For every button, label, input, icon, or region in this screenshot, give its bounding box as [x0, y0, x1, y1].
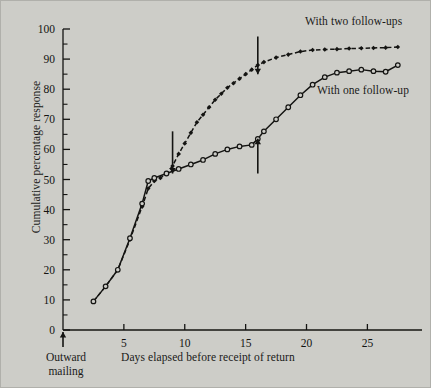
- data-point-marker: [274, 117, 279, 122]
- data-point-marker: [164, 171, 169, 176]
- x-axis-title: Days elapsed before receipt of return: [121, 351, 295, 363]
- data-point-marker: [359, 67, 364, 72]
- data-point-marker: [213, 152, 218, 157]
- data-point-marker: [322, 75, 327, 80]
- y-tick-label: 50: [44, 174, 56, 186]
- x-tick-label: 15: [240, 337, 252, 349]
- data-point-marker: [152, 176, 157, 181]
- data-point-marker: [371, 69, 376, 74]
- data-point-marker: [103, 284, 108, 289]
- x-tick-label: 25: [362, 337, 374, 349]
- data-point-marker: [91, 299, 96, 304]
- data-point-marker: [383, 45, 388, 50]
- outward-mailing-label: Outward mailing: [29, 350, 103, 378]
- x-tick-label: 10: [179, 337, 191, 349]
- data-point-marker: [359, 46, 364, 51]
- annotation-arrows: [60, 37, 261, 347]
- plot-area: 0102030405060708090100510152025: [1, 1, 431, 388]
- data-point-marker: [237, 144, 242, 149]
- data-point-marker: [262, 129, 267, 134]
- data-point-marker: [286, 105, 291, 110]
- y-tick-label: 80: [44, 83, 56, 95]
- data-point-marker: [310, 82, 315, 87]
- data-point-marker: [249, 143, 254, 148]
- tick-labels: 0102030405060708090100510152025: [38, 23, 374, 349]
- data-point-marker: [383, 69, 388, 74]
- data-point-marker: [189, 162, 194, 167]
- data-point-marker: [128, 236, 133, 241]
- data-point-marker: [396, 63, 401, 68]
- x-tick-label: 20: [301, 337, 313, 349]
- first-follow-up-arrow: [169, 131, 175, 173]
- data-point-marker: [322, 47, 327, 52]
- data-point-marker: [201, 158, 206, 163]
- data-point-marker: [298, 49, 303, 54]
- series-label-two-followups: With two follow-ups: [305, 15, 402, 27]
- data-point-marker: [225, 147, 230, 152]
- y-tick-label: 40: [44, 204, 56, 216]
- data-point-marker: [286, 52, 291, 57]
- data-point-marker: [176, 167, 181, 172]
- axes: [63, 29, 422, 330]
- y-tick-label: 70: [44, 113, 56, 125]
- data-point-marker: [396, 45, 401, 50]
- data-point-marker: [298, 93, 303, 98]
- data-point-marker: [140, 201, 145, 206]
- data-point-marker: [146, 179, 151, 184]
- data-point-marker: [274, 55, 279, 60]
- y-axis-title: Cumulative percentage response: [30, 32, 42, 282]
- x-tick-label: 5: [121, 337, 127, 349]
- outward-mailing-line2: mailing: [29, 364, 103, 378]
- data-point-marker: [371, 46, 376, 51]
- second-follow-up-arrow: [255, 37, 261, 75]
- chart-figure: 0102030405060708090100510152025 Cumulati…: [0, 0, 431, 388]
- data-point-marker: [310, 48, 315, 53]
- y-tick-label: 0: [49, 324, 55, 336]
- data-point-marker: [115, 268, 120, 273]
- data-point-marker: [347, 69, 352, 74]
- data-point-marker: [335, 47, 340, 52]
- outward-mailing-line1: Outward: [29, 350, 103, 364]
- y-tick-label: 30: [44, 234, 56, 246]
- one-follow-up-arrow: [255, 139, 261, 174]
- series-line: [93, 65, 397, 301]
- y-tick-label: 60: [44, 143, 56, 155]
- data-point-marker: [335, 70, 340, 75]
- y-tick-label: 90: [44, 53, 56, 65]
- series-label-one-followup: With one follow-up: [317, 84, 409, 96]
- data-point-marker: [347, 46, 352, 51]
- y-tick-label: 10: [44, 294, 56, 306]
- outward-mailing-arrow: [60, 332, 66, 347]
- y-tick-label: 20: [44, 264, 56, 276]
